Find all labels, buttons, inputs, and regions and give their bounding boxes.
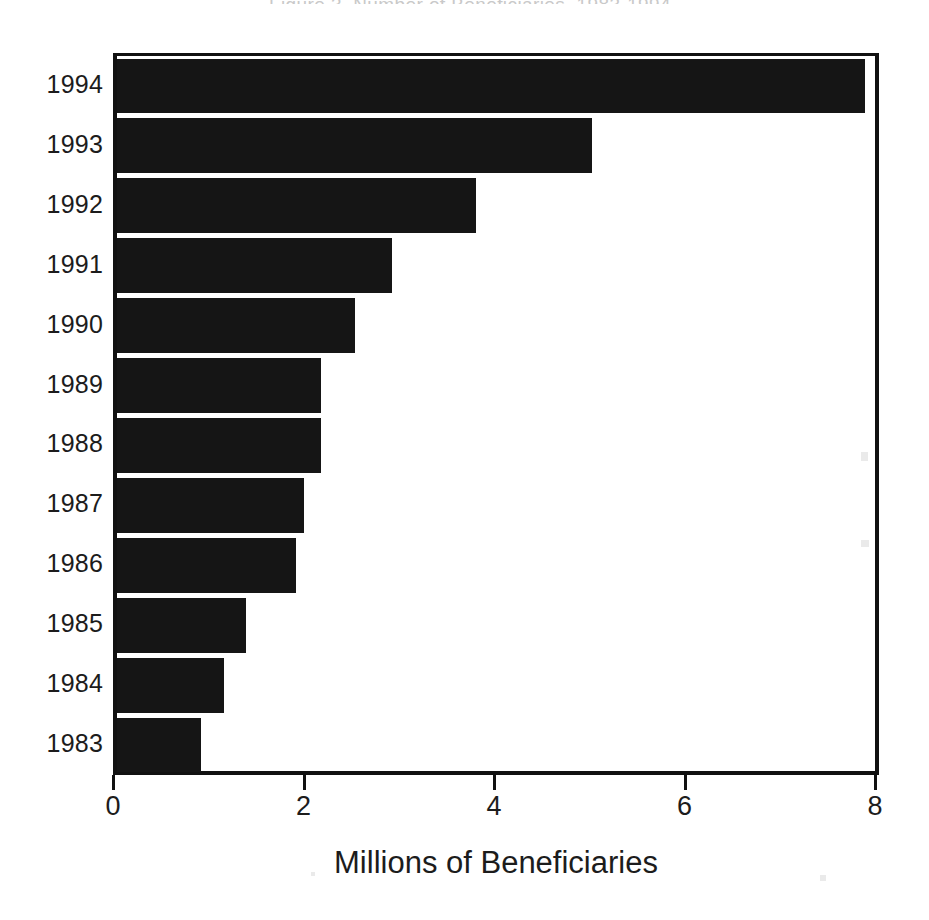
bar-row	[117, 298, 875, 353]
x-tick-label-0: 0	[105, 791, 120, 822]
x-tick-mark-0	[112, 775, 115, 790]
bar-1986	[117, 538, 296, 593]
bar-1984	[117, 658, 224, 713]
y-axis-label-1984: 1984	[47, 669, 103, 698]
scan-speckle	[861, 452, 868, 461]
scan-speckle	[861, 540, 869, 547]
x-tick-mark-8	[874, 775, 877, 790]
x-tick-label-6: 6	[677, 791, 692, 822]
bar-row	[117, 178, 875, 233]
bar-row	[117, 658, 875, 713]
bar-1991	[117, 238, 392, 293]
x-tick-mark-6	[684, 775, 687, 790]
bar-1985	[117, 598, 246, 653]
bar-1990	[117, 298, 355, 353]
bars-area	[117, 56, 875, 775]
bar-1993	[117, 118, 592, 173]
bar-1989	[117, 358, 321, 413]
bar-row	[117, 59, 875, 114]
x-tick-label-4: 4	[486, 791, 501, 822]
x-axis-title: Millions of Beneficiaries	[113, 845, 879, 881]
bar-1983	[117, 718, 201, 773]
bar-1992	[117, 178, 476, 233]
bar-row	[117, 478, 875, 533]
bar-1994	[117, 59, 865, 114]
x-tick-label-2: 2	[296, 791, 311, 822]
y-axis-label-1987: 1987	[47, 489, 103, 518]
y-axis-label-1983: 1983	[47, 729, 103, 758]
y-axis-label-1993: 1993	[47, 130, 103, 159]
y-axis-label-1989: 1989	[47, 370, 103, 399]
y-axis-label-1991: 1991	[47, 250, 103, 279]
bar-row	[117, 598, 875, 653]
bar-row	[117, 538, 875, 593]
bar-row	[117, 358, 875, 413]
scan-speckle	[820, 875, 826, 881]
y-axis-label-1992: 1992	[47, 190, 103, 219]
x-tick-mark-2	[303, 775, 306, 790]
bar-chart-figure: Figure 3. Number of Beneficiaries, 1983-…	[0, 0, 929, 920]
bar-row	[117, 718, 875, 773]
scan-speckle	[311, 872, 315, 876]
bar-row	[117, 418, 875, 473]
cropped-title-remnant: Figure 3. Number of Beneficiaries, 1983-…	[230, 0, 710, 4]
bar-row	[117, 238, 875, 293]
x-axis-ticks: 02468	[113, 775, 879, 793]
bar-1988	[117, 418, 321, 473]
y-axis-label-1986: 1986	[47, 549, 103, 578]
y-axis-label-1994: 1994	[47, 70, 103, 99]
y-axis-label-1990: 1990	[47, 310, 103, 339]
bar-row	[117, 118, 875, 173]
bar-1987	[117, 478, 304, 533]
x-tick-mark-4	[493, 775, 496, 790]
y-axis-labels: 1994199319921991199019891988198719861985…	[0, 56, 103, 775]
x-tick-label-8: 8	[867, 791, 882, 822]
y-axis-label-1988: 1988	[47, 429, 103, 458]
y-axis-label-1985: 1985	[47, 609, 103, 638]
